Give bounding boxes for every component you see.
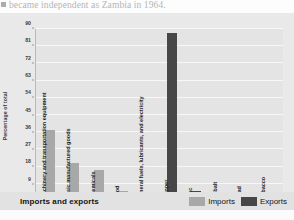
chart-figure: Percentage of total 09182736455463728190… bbox=[0, 13, 294, 220]
bar-slot: Mineral fuels, lubricants, and electrici… bbox=[137, 29, 158, 201]
legend-swatch-imports bbox=[189, 197, 205, 206]
bar-slot: Machinery and transportation equipment bbox=[39, 29, 60, 201]
figure-footer: Imports and exports ImportsExports bbox=[0, 192, 294, 210]
y-axis-tick-mark bbox=[32, 62, 34, 63]
bar-slot: Tobacco bbox=[259, 29, 280, 201]
bar-slot: Food bbox=[112, 29, 133, 201]
y-axis-tick-label: 18 bbox=[25, 158, 31, 164]
y-axis-tick-mark bbox=[32, 28, 34, 29]
legend-item[interactable]: Imports bbox=[189, 197, 235, 206]
y-axis-tick-label: 27 bbox=[25, 141, 31, 147]
category-label: Mineral fuels, lubricants, and electrici… bbox=[138, 96, 144, 199]
y-axis-tick-label: 54 bbox=[25, 89, 31, 95]
legend-label: Exports bbox=[260, 197, 287, 206]
y-axis-tick-mark bbox=[32, 149, 34, 150]
y-axis-tick-label: 36 bbox=[25, 124, 31, 130]
bar-slot: Basic manufactured goods bbox=[63, 29, 84, 201]
y-axis-tick-mark bbox=[32, 166, 34, 167]
y-axis-tick-label: 81 bbox=[25, 37, 31, 43]
bar-series: Machinery and transportation equipmentBa… bbox=[39, 29, 280, 201]
y-axis-tick-label: 90 bbox=[25, 20, 31, 26]
bleed-through-text: became independent as Zambia in 1964. bbox=[0, 0, 294, 12]
bar-slot: Chemicals bbox=[88, 29, 109, 201]
bar-slot: Copper bbox=[161, 29, 182, 201]
y-axis-ticks: 09182736455463728190 bbox=[0, 29, 34, 202]
y-axis-tick-mark bbox=[32, 97, 34, 98]
bar-slot: Cobalt bbox=[210, 29, 231, 201]
chart-legend: ImportsExports bbox=[189, 197, 287, 206]
bleed-bullet-icon bbox=[1, 2, 6, 7]
bar[interactable] bbox=[167, 33, 177, 201]
y-axis-tick-label: 9 bbox=[28, 176, 31, 182]
plot-area: Machinery and transportation equipmentBa… bbox=[35, 29, 283, 202]
y-axis-tick-label: 45 bbox=[25, 107, 31, 113]
legend-swatch-exports bbox=[241, 197, 257, 206]
legend-label: Imports bbox=[208, 197, 235, 206]
y-axis-tick-mark bbox=[32, 183, 34, 184]
legend-item[interactable]: Exports bbox=[241, 197, 287, 206]
figure-caption: Imports and exports bbox=[20, 197, 99, 206]
y-axis-tick-label: 63 bbox=[25, 72, 31, 78]
bar-slot: Zinc bbox=[185, 29, 206, 201]
figure-page: became independent as Zambia in 1964. Pe… bbox=[0, 0, 294, 220]
y-axis-tick-mark bbox=[32, 79, 34, 80]
page-bottom-strip bbox=[0, 210, 294, 220]
bleed-text-content: became independent as Zambia in 1964. bbox=[9, 0, 166, 10]
bar-slot: Lead bbox=[234, 29, 255, 201]
category-label: Machinery and transportation equipment bbox=[41, 92, 47, 199]
y-axis-tick-mark bbox=[32, 114, 34, 115]
y-axis-tick-mark bbox=[32, 131, 34, 132]
y-axis-tick-mark bbox=[32, 45, 34, 46]
category-label: Basic manufactured goods bbox=[65, 128, 71, 199]
y-axis-tick-label: 72 bbox=[25, 55, 31, 61]
